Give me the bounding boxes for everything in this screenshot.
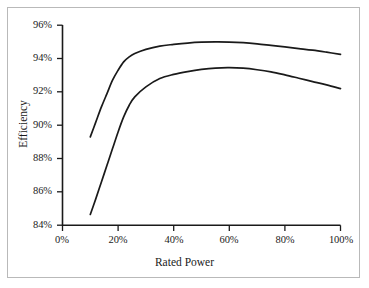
x-tick-label-80: 80% — [262, 234, 308, 245]
y-tick-label-94: 94% — [12, 52, 52, 63]
y-tick-label-84: 84% — [12, 219, 52, 230]
y-tick-marks — [57, 25, 63, 225]
chart-figure: 96% 94% 92% 90% 88% 86% 84% 0% 20% 40% 6… — [0, 0, 369, 288]
x-tick-label-100: 100% — [318, 234, 364, 245]
upper-efficiency-curve — [90, 42, 340, 137]
y-axis-title: Efficiency — [17, 69, 29, 179]
y-tick-label-86: 86% — [12, 185, 52, 196]
x-tick-label-60: 60% — [206, 234, 252, 245]
x-tick-label-40: 40% — [151, 234, 197, 245]
lower-efficiency-curve — [90, 68, 340, 215]
y-tick-label-96: 96% — [12, 19, 52, 30]
x-axis-title: Rated Power — [0, 256, 369, 268]
x-tick-label-0: 0% — [39, 234, 85, 245]
x-tick-label-20: 20% — [95, 234, 141, 245]
x-tick-marks — [63, 225, 341, 231]
data-curves — [90, 42, 340, 215]
